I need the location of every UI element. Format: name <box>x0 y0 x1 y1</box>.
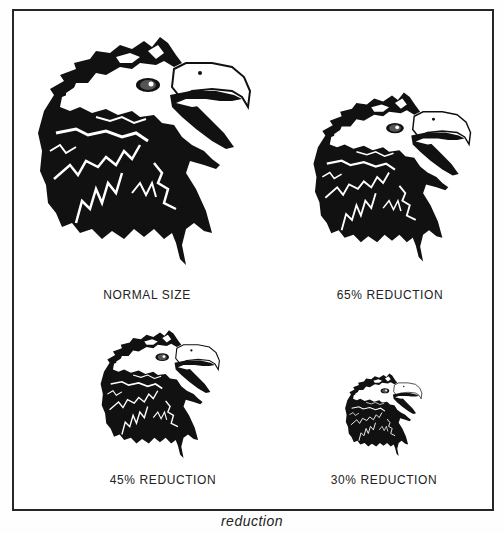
label-45-reduction: 45% REDUCTION <box>110 473 216 487</box>
label-30-reduction: 30% REDUCTION <box>331 473 437 487</box>
eagle-head-icon <box>36 33 252 265</box>
eagle-head-icon <box>98 328 222 458</box>
eagle-65-reduction-illustration <box>312 88 472 263</box>
label-normal-size: NORMAL SIZE <box>103 288 191 302</box>
eagle-head-icon <box>341 372 426 456</box>
eagle-45-reduction-illustration <box>98 328 222 458</box>
eagle-normal-size-illustration <box>36 33 252 265</box>
eagle-head-icon <box>312 88 472 263</box>
figure-caption: reduction <box>221 513 283 529</box>
eagle-30-reduction-illustration <box>341 372 426 456</box>
label-65-reduction: 65% REDUCTION <box>337 288 443 302</box>
